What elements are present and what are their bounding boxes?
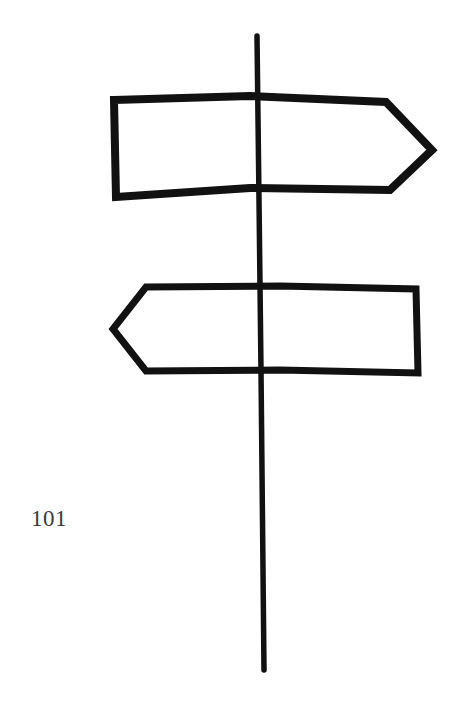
sign-pointing-left	[113, 286, 418, 373]
page-number: 101	[31, 506, 67, 532]
signpost-icon	[0, 0, 456, 706]
sign-pointing-right	[114, 96, 432, 197]
document-page: 101	[0, 0, 456, 706]
